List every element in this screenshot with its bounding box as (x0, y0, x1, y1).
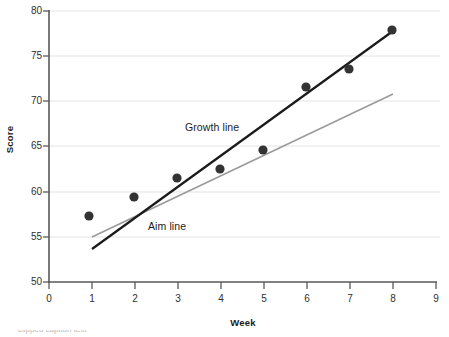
clipped-caption-text: clipped caption text (18, 330, 87, 334)
chart-figure: Score 80 75 70 65 60 55 50 0 1 2 3 4 5 6… (0, 0, 449, 337)
data-point (344, 64, 353, 73)
data-point (215, 164, 224, 173)
x-axis (48, 282, 437, 289)
data-point (129, 192, 138, 201)
x-axis-title: Week (49, 317, 437, 328)
growth-line-label: Growth line (185, 121, 239, 133)
plot-area (0, 0, 449, 337)
data-point (387, 25, 396, 34)
data-point (172, 173, 181, 182)
data-markers (84, 25, 396, 220)
clipped-caption: clipped caption text (0, 330, 449, 337)
data-point (84, 211, 93, 220)
growth-line (92, 31, 393, 249)
data-point (301, 82, 310, 91)
data-point (258, 145, 267, 154)
gridlines (49, 11, 440, 237)
y-axis (43, 10, 49, 283)
aim-line-label: Aim line (148, 220, 186, 232)
